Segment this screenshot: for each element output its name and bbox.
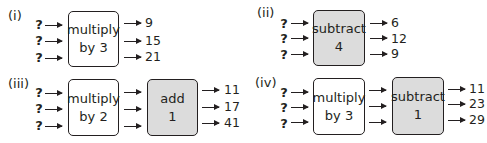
arrow-icon	[369, 90, 386, 91]
input-unknown: ?	[279, 48, 289, 62]
arrow-icon	[124, 57, 141, 58]
input-unknown: ?	[34, 51, 44, 65]
input-unknown: ?	[279, 32, 289, 46]
function-machine: subtract 4	[313, 10, 365, 66]
operation-operand: by 2	[79, 108, 107, 126]
diagram-label: (i)	[8, 8, 22, 23]
output-value: 6	[391, 16, 399, 30]
function-machine: multiply by 3	[313, 78, 365, 135]
output-value: 29	[469, 113, 485, 127]
arrow-icon	[45, 93, 62, 94]
arrow-icon	[124, 92, 141, 93]
arrow-icon	[291, 92, 308, 93]
arrow-icon	[370, 23, 387, 24]
operation-text: subtract	[312, 20, 366, 38]
operation-operand: by 3	[79, 39, 107, 57]
operation-text: multiply	[67, 21, 120, 39]
output-value: 11	[469, 82, 485, 96]
arrow-icon	[291, 122, 308, 123]
input-unknown: ?	[279, 101, 289, 115]
arrow-icon	[202, 90, 219, 91]
operation-operand: 4	[335, 38, 343, 56]
operation-text: multiply	[67, 90, 120, 108]
operation-operand: by 3	[325, 107, 353, 125]
arrow-icon	[124, 23, 141, 24]
arrow-icon	[448, 120, 465, 121]
input-unknown: ?	[34, 86, 44, 100]
input-unknown: ?	[279, 86, 289, 100]
input-unknown: ?	[34, 102, 44, 116]
input-unknown: ?	[279, 17, 289, 31]
output-value: 11	[224, 83, 240, 97]
input-unknown: ?	[34, 34, 44, 48]
arrow-icon	[291, 23, 308, 24]
input-unknown: ?	[34, 18, 44, 32]
arrow-icon	[291, 54, 308, 55]
arrow-icon	[291, 38, 308, 39]
arrow-icon	[370, 38, 387, 39]
arrow-icon	[448, 89, 465, 90]
arrow-icon	[45, 25, 62, 26]
output-value: 17	[224, 100, 240, 114]
operation-text: multiply	[313, 89, 366, 107]
arrow-icon	[45, 41, 62, 42]
function-machine: subtract 1	[392, 77, 444, 135]
arrow-icon	[370, 54, 387, 55]
function-machine: add 1	[147, 79, 198, 136]
arrow-icon	[369, 106, 386, 107]
arrow-icon	[202, 123, 219, 124]
operation-operand: 1	[168, 108, 176, 126]
diagram-label: (iv)	[255, 75, 276, 90]
function-machine: multiply by 2	[68, 79, 119, 136]
output-value: 23	[469, 97, 485, 111]
arrow-icon	[124, 109, 141, 110]
function-machine: multiply by 3	[68, 11, 119, 67]
diagram-label: (iii)	[8, 76, 29, 91]
diagram-label: (ii)	[257, 5, 274, 20]
operation-text: subtract	[391, 88, 445, 106]
output-value: 15	[145, 34, 161, 48]
output-value: 9	[391, 47, 399, 61]
arrow-icon	[124, 41, 141, 42]
arrow-icon	[202, 107, 219, 108]
input-unknown: ?	[34, 119, 44, 133]
output-value: 9	[145, 16, 153, 30]
output-value: 41	[224, 116, 240, 130]
arrow-icon	[45, 109, 62, 110]
arrow-icon	[369, 122, 386, 123]
operation-operand: 1	[414, 106, 422, 124]
input-unknown: ?	[279, 117, 289, 131]
arrow-icon	[291, 107, 308, 108]
operation-text: add	[160, 90, 184, 108]
output-value: 21	[145, 50, 161, 64]
arrow-icon	[45, 126, 62, 127]
output-value: 12	[391, 32, 407, 46]
arrow-icon	[45, 58, 62, 59]
arrow-icon	[448, 104, 465, 105]
arrow-icon	[124, 126, 141, 127]
